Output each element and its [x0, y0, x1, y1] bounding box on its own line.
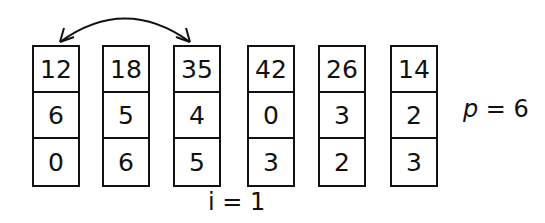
cell: 5 [175, 139, 219, 185]
cell: 3 [249, 139, 293, 185]
cell: 0 [34, 139, 78, 185]
cell: 5 [104, 93, 148, 139]
cell: 14 [392, 47, 436, 93]
column-2: 18 5 6 [102, 45, 150, 187]
column-6: 14 2 3 [390, 45, 438, 187]
cell: 6 [104, 139, 148, 185]
column-4: 42 0 3 [247, 45, 295, 187]
cell: 4 [175, 93, 219, 139]
cell: 12 [34, 47, 78, 93]
column-3: 35 4 5 [173, 45, 221, 187]
cell: 42 [249, 47, 293, 93]
cell: 18 [104, 47, 148, 93]
cell: 3 [320, 93, 364, 139]
p-value: = 6 [478, 95, 529, 123]
column-1: 12 6 0 [32, 45, 80, 187]
p-variable: p [463, 95, 478, 123]
cell: 2 [320, 139, 364, 185]
cell: 6 [34, 93, 78, 139]
column-5: 26 3 2 [318, 45, 366, 187]
cell: 2 [392, 93, 436, 139]
cell: 0 [249, 93, 293, 139]
p-label: p = 6 [463, 95, 529, 123]
cell: 26 [320, 47, 364, 93]
cell: 3 [392, 139, 436, 185]
cell: 35 [175, 47, 219, 93]
index-label: i = 1 [208, 188, 265, 216]
